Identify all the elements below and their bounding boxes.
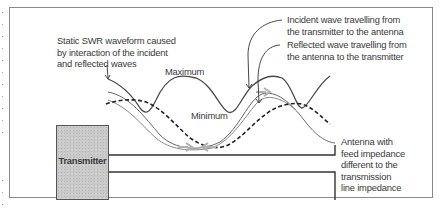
transmitter-label: Transmitter <box>57 155 108 166</box>
static-swr-line-1: Static SWR waveform caused <box>57 35 176 47</box>
transmission-line <box>109 145 335 200</box>
antenna-line-4: transmission <box>341 171 405 183</box>
reflected-line-2: the antenna to the transmitter <box>287 51 407 63</box>
antenna-line-1: Antenna with <box>341 136 405 148</box>
maximum-label: Maximum <box>165 66 204 78</box>
incident-line-1: Incident wave travelling from <box>287 14 403 26</box>
minimum-label: Minimum <box>191 110 228 122</box>
antenna-line-3: different to the <box>341 159 405 171</box>
incident-label: Incident wave travelling from the transm… <box>287 14 403 37</box>
antenna-line-2: feed impedance <box>341 148 405 160</box>
reflected-line-1: Reflected wave travelling from <box>287 39 407 51</box>
static-swr-label: Static SWR waveform caused by interactio… <box>57 35 176 70</box>
incident-line-2: the transmitter to the antenna <box>287 26 403 38</box>
reflected-label: Reflected wave travelling from the anten… <box>287 39 407 62</box>
transmitter-box: Transmitter <box>56 125 109 200</box>
antenna-line-5: line impedance <box>341 182 405 194</box>
antenna-label: Antenna with feed impedance different to… <box>341 136 405 194</box>
static-swr-line-2: by interaction of the incident <box>57 47 176 59</box>
reflected-wave <box>108 97 296 149</box>
swr-waveform <box>108 76 330 113</box>
static-swr-line-3: and reflected waves <box>57 58 176 70</box>
